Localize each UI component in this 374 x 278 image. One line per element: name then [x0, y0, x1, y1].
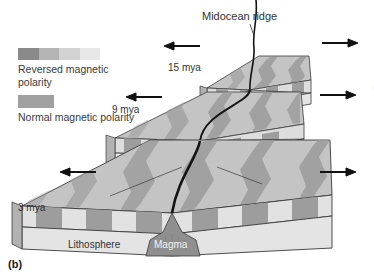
label-15mya: 15 mya [168, 62, 201, 74]
title-leader-line [250, 24, 254, 36]
page-title: Midocean ridge [202, 10, 277, 22]
label-3mya: 3 mya [18, 202, 45, 214]
spreading-arrow-left-9mya [126, 93, 162, 101]
label-magma: Magma [154, 239, 187, 251]
diagram-canvas [0, 0, 374, 278]
spreading-arrow-right-9mya [320, 91, 356, 99]
spreading-arrow-left-15mya [164, 42, 200, 50]
figure-seafloor-spreading: Reversed magnetic polarity Normal magnet… [0, 0, 374, 278]
spreading-arrow-right-15mya [322, 39, 358, 47]
label-9mya: 9 mya [112, 104, 139, 116]
panel-label: (b) [8, 258, 22, 270]
label-lithosphere: Lithosphere [68, 239, 120, 251]
